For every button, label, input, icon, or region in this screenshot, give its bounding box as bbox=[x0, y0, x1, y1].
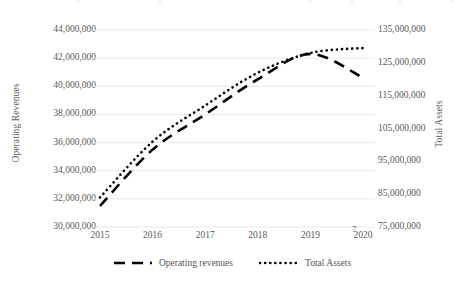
dotted-line-icon bbox=[259, 258, 299, 268]
x-axis-tick-label: 2017 bbox=[196, 231, 215, 241]
x-axis-ticks: 201520162017201820192020 bbox=[0, 231, 464, 247]
legend-label: Operating revenues bbox=[159, 258, 233, 268]
legend-item[interactable]: Operating revenues bbox=[113, 258, 233, 268]
legend-label: Total Assets bbox=[305, 258, 351, 268]
x-axis-tick-label: 2016 bbox=[143, 231, 162, 241]
x-axis-tick-label: 2015 bbox=[91, 231, 110, 241]
chart-legend: Operating revenuesTotal Assets bbox=[0, 258, 464, 268]
x-axis-tick-label: 2019 bbox=[301, 231, 320, 241]
page-number: 7 bbox=[352, 224, 357, 234]
dashed-line-icon bbox=[113, 258, 153, 268]
x-axis-tick-label: 2018 bbox=[248, 231, 267, 241]
series-lines bbox=[100, 48, 363, 206]
gridlines bbox=[92, 30, 375, 227]
legend-item[interactable]: Total Assets bbox=[259, 258, 351, 268]
series-line-total-assets bbox=[100, 48, 363, 197]
series-line-operating-revenues bbox=[100, 54, 363, 206]
chart-container: Operating Revenues Total Assets 44,000,0… bbox=[0, 0, 464, 283]
